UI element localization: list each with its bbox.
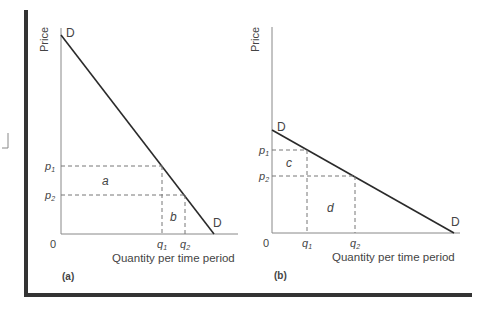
y-axis-label: Price	[38, 27, 50, 52]
area-d-label: d	[327, 201, 334, 215]
p1-label: p1	[258, 144, 269, 157]
curve-label-bottom: D	[213, 216, 222, 230]
area-a-label: a	[102, 174, 109, 188]
origin-label: 0	[50, 238, 56, 250]
curve-label-top: D	[66, 26, 75, 40]
q2-label: q2	[350, 237, 360, 250]
panel-caption: (a)	[62, 271, 74, 282]
demand-curve	[272, 130, 454, 233]
x-axis-label: Quantity per time period	[332, 251, 455, 263]
area-c-label: c	[286, 156, 292, 170]
panel-caption: (b)	[274, 270, 287, 281]
p2-label: p2	[44, 189, 55, 202]
q1-label: q1	[157, 238, 167, 251]
figure: Price D D 0 p1 p2 q1 q2 a b Quantity per…	[0, 0, 487, 309]
x-axis-label: Quantity per time period	[112, 252, 235, 264]
edge-artifact	[2, 133, 8, 148]
frame-bottom	[24, 293, 472, 297]
panel-b: Price D D 0 p1 p2 q1 q2 c d Quantity per…	[249, 27, 460, 281]
panel-a: Price D D 0 p1 p2 q1 q2 a b Quantity per…	[38, 26, 238, 282]
y-axis-label: Price	[249, 27, 261, 52]
p1-label: p1	[44, 160, 55, 173]
p2-label: p2	[258, 170, 269, 183]
curve-label-bottom: D	[451, 215, 460, 229]
demand-curve	[61, 35, 214, 234]
area-b-label: b	[170, 210, 177, 224]
q2-label: q2	[180, 238, 190, 251]
origin-label: 0	[263, 237, 269, 249]
curve-label-top: D	[277, 120, 286, 134]
q1-label: q1	[302, 237, 312, 250]
frame-left	[24, 10, 28, 297]
